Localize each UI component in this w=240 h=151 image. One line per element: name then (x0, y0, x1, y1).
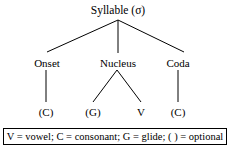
terminal-nucleus-v: V (137, 106, 145, 118)
node-syllable-root: Syllable (σ) (91, 4, 145, 16)
node-nucleus: Nucleus (100, 57, 136, 69)
node-coda: Coda (166, 57, 189, 69)
legend-box: V = vowel; C = consonant; G = glide; ( )… (3, 128, 227, 145)
terminal-nucleus-g: (G) (85, 106, 100, 118)
branch-nucleus-to-v (117, 70, 141, 102)
branch-nucleus-to-g (93, 70, 117, 102)
syllable-tree-diagram: Syllable (σ) Onset Nucleus Coda (C) (G) … (0, 0, 240, 151)
terminal-coda-c: (C) (171, 106, 186, 118)
legend-text: V = vowel; C = consonant; G = glide; ( )… (7, 131, 224, 142)
node-onset: Onset (34, 57, 60, 69)
branch-root-to-coda (118, 20, 184, 52)
terminal-onset-c: (C) (39, 106, 54, 118)
branch-root-to-onset (47, 20, 118, 52)
